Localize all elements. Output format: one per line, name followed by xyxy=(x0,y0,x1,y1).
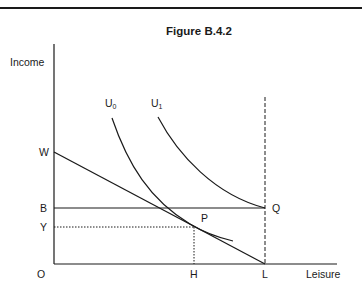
point-p-label: P xyxy=(201,212,208,224)
y-axis-label: Income xyxy=(10,56,44,68)
point-b-label: B xyxy=(40,202,47,214)
diagram-canvas xyxy=(0,0,362,290)
point-y-label: Y xyxy=(40,221,47,233)
x-axis-label: Leisure xyxy=(306,268,340,280)
origin-label: O xyxy=(37,268,45,280)
indifference-curve-u0 xyxy=(112,118,233,241)
point-q-label: Q xyxy=(272,202,280,214)
point-h-label: H xyxy=(190,268,198,280)
point-l-label: L xyxy=(262,268,268,280)
indifference-curve-u1 xyxy=(158,117,265,208)
u0-label: U0 xyxy=(105,97,117,113)
u1-label: U1 xyxy=(151,97,163,113)
point-w-label: W xyxy=(39,146,49,158)
